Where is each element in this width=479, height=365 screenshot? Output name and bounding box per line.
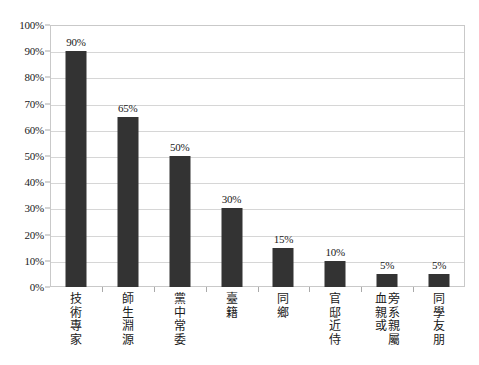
y-axis-tick-label: 100% (0, 20, 44, 31)
x-axis-category-label: 臺籍 (206, 293, 258, 320)
y-axis-tick-label: 20% (0, 229, 44, 240)
x-axis-label-char: 朋 (433, 334, 445, 348)
bar[interactable] (117, 117, 138, 287)
x-axis-label-char: 黨 (174, 293, 186, 307)
y-axis-tick-label: 10% (0, 255, 44, 266)
y-axis: 0%10%20%30%40%50%60%70%80%90%100% (0, 25, 44, 287)
x-axis-tick-mark (154, 287, 155, 292)
x-axis-label-char: 旁 (388, 293, 400, 307)
y-axis-tick-label: 60% (0, 124, 44, 135)
y-axis-tick-mark (45, 129, 50, 130)
x-axis-tick-mark (413, 287, 414, 292)
x-axis-label-char: 中 (174, 307, 186, 321)
x-axis-label-column: 臺籍 (226, 293, 238, 320)
x-axis-tick-mark (206, 287, 207, 292)
bar-value-label: 30% (222, 194, 242, 205)
y-axis-tick-label: 80% (0, 72, 44, 83)
bar-chart: 0%10%20%30%40%50%60%70%80%90%100% 90%65%… (0, 0, 479, 365)
x-axis-label-column: 同鄉 (277, 293, 289, 320)
y-axis-tick-label: 70% (0, 98, 44, 109)
bar[interactable] (169, 156, 190, 287)
x-axis-label-column: 同學友朋 (433, 293, 445, 347)
x-axis-category-label: 旁系親屬血親或 (361, 293, 413, 347)
x-axis-labels: 技術專家師生淵源黨中常委臺籍同鄉官邸近侍旁系親屬血親或同學友朋 (50, 293, 465, 365)
y-axis-tick-mark (45, 103, 50, 104)
x-axis-label-char: 專 (70, 320, 82, 334)
x-axis-label-char: 常 (174, 320, 186, 334)
x-axis-label-char: 術 (70, 307, 82, 321)
bar-slot: 5% (413, 25, 465, 287)
x-axis-category-label: 官邸近侍 (309, 293, 361, 347)
x-axis-label-column: 官邸近侍 (329, 293, 341, 347)
bar-slot: 15% (258, 25, 310, 287)
bar-slot: 5% (361, 25, 413, 287)
x-axis-label-char: 家 (70, 334, 82, 348)
x-axis-label-char: 親 (388, 320, 400, 334)
x-axis-category-label: 師生淵源 (102, 293, 154, 347)
x-axis-label-char: 系 (388, 307, 400, 321)
x-axis-label-char: 侍 (329, 334, 341, 348)
x-axis-tick-mark (361, 287, 362, 292)
x-axis-label-column: 黨中常委 (174, 293, 186, 347)
bar[interactable] (325, 261, 346, 287)
x-axis-label-char: 友 (433, 320, 445, 334)
y-axis-tick-mark (45, 51, 50, 52)
bar-slot: 30% (206, 25, 258, 287)
bar[interactable] (273, 248, 294, 287)
bar-value-label: 65% (118, 103, 138, 114)
x-axis-label-char: 親 (375, 307, 387, 321)
x-axis-label-char: 鄉 (277, 307, 289, 321)
x-axis-label-column: 技術專家 (70, 293, 82, 347)
y-axis-tick-label: 40% (0, 177, 44, 188)
y-axis-tick-label: 30% (0, 203, 44, 214)
x-axis-label-char: 淵 (122, 320, 134, 334)
x-axis-label-char: 生 (122, 307, 134, 321)
bar-slot: 90% (50, 25, 102, 287)
bar[interactable] (221, 208, 242, 287)
bar-value-label: 10% (326, 247, 346, 258)
x-axis-label-char: 屬 (388, 334, 400, 348)
bar-slot: 10% (309, 25, 361, 287)
y-axis-tick-mark (45, 77, 50, 78)
bar-value-label: 5% (432, 260, 446, 271)
bar-value-label: 5% (380, 260, 394, 271)
x-axis-category-label: 技術專家 (50, 293, 102, 347)
x-axis-label-char: 邸 (329, 307, 341, 321)
y-axis-tick-mark (45, 25, 50, 26)
x-axis-label-char: 近 (329, 320, 341, 334)
x-axis-label-char: 臺 (226, 293, 238, 307)
x-axis-category-label: 同鄉 (258, 293, 310, 320)
x-axis-label-char: 或 (375, 320, 387, 334)
x-axis-label-column: 血親或 (375, 293, 387, 347)
bar[interactable] (429, 274, 450, 287)
bar[interactable] (377, 274, 398, 287)
bar-value-label: 15% (274, 234, 294, 245)
x-axis-label-char: 技 (70, 293, 82, 307)
y-axis-tick-label: 90% (0, 46, 44, 57)
x-axis-label-char: 師 (122, 293, 134, 307)
x-axis-label-char: 同 (277, 293, 289, 307)
bar-value-label: 50% (170, 142, 190, 153)
x-axis-label-column: 師生淵源 (122, 293, 134, 347)
y-axis-tick-mark (45, 156, 50, 157)
x-axis-label-char: 學 (433, 307, 445, 321)
bar-value-label: 90% (66, 37, 86, 48)
y-axis-tick-mark (45, 287, 50, 288)
x-axis-tick-mark (258, 287, 259, 292)
bar-slot: 65% (102, 25, 154, 287)
y-axis-tick-mark (45, 234, 50, 235)
x-axis-label-char: 委 (174, 334, 186, 348)
x-axis-label-char: 源 (122, 334, 134, 348)
y-axis-tick-mark (45, 260, 50, 261)
bar[interactable] (65, 51, 86, 287)
x-axis-tick-mark (309, 287, 310, 292)
x-axis-category-label: 同學友朋 (413, 293, 465, 347)
x-axis-label-char: 同 (433, 293, 445, 307)
y-axis-tick-label: 50% (0, 151, 44, 162)
x-axis-label-char: 官 (329, 293, 341, 307)
x-axis-label-char: 籍 (226, 307, 238, 321)
x-axis-label-column: 旁系親屬 (388, 293, 400, 347)
x-axis-label-char: 血 (375, 293, 387, 307)
y-axis-tick-mark (45, 208, 50, 209)
x-axis-tick-mark (102, 287, 103, 292)
